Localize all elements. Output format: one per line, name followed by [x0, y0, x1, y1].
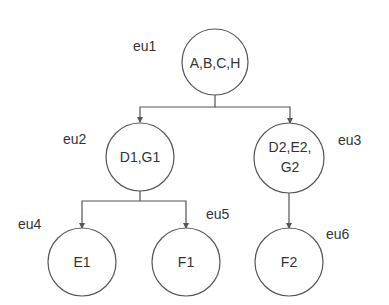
edge-eu1-eu3	[215, 107, 290, 123]
node-label: eu3	[338, 132, 362, 148]
node-label: eu2	[63, 131, 87, 147]
node-eu1: A,B,C,H eu1	[133, 29, 248, 95]
node-content: A,B,C,H	[190, 55, 241, 71]
node-label: eu4	[18, 216, 42, 232]
edge-eu1-eu2	[140, 95, 215, 122]
node-content: E1	[73, 254, 90, 270]
node-content: D1,G1	[120, 149, 161, 165]
node-content-line-1: D2,E2,	[269, 139, 312, 155]
node-eu4: E1 eu4	[18, 216, 116, 296]
node-label: eu1	[133, 38, 157, 54]
node-eu3: D2,E2, G2 eu3	[254, 123, 362, 193]
node-label: eu6	[326, 226, 350, 242]
node-label: eu5	[206, 206, 230, 222]
edge-eu2-eu4	[82, 190, 140, 228]
node-eu2: D1,G1 eu2	[63, 123, 174, 191]
tree-diagram: A,B,C,H eu1 D1,G1 eu2 D2,E2, G2 eu3 E1 e…	[0, 0, 389, 305]
node-content-line-2: G2	[281, 159, 300, 175]
edge-eu2-eu5	[140, 201, 186, 228]
node-eu5: F1 eu5	[152, 206, 230, 296]
node-content: F1	[178, 254, 195, 270]
node-content: F2	[281, 254, 298, 270]
node-eu6: F2 eu6	[255, 226, 350, 296]
